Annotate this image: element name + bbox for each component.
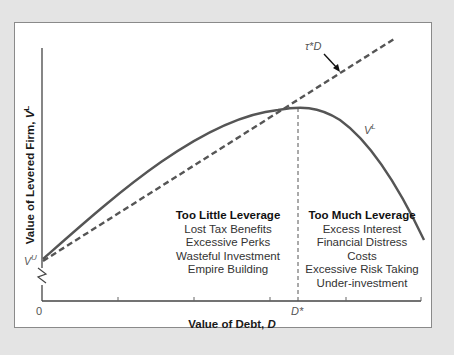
tau-d-label: τ*D <box>305 40 321 52</box>
too-little-title: Too Little Leverage <box>170 209 286 223</box>
too-little-item: Excessive Perks <box>170 236 286 250</box>
vu-sup: U <box>31 253 37 262</box>
too-much-item: Excessive Risk Taking <box>301 263 423 277</box>
vu-base: V <box>24 255 31 267</box>
axis-break-icon <box>38 268 46 283</box>
too-little-item: Lost Tax Benefits <box>170 223 286 237</box>
y-axis-symbol: V <box>24 111 36 119</box>
y-axis-label-text: Value of Levered Firm, <box>24 118 36 244</box>
x-axis-label: Value of Debt, D <box>188 318 276 330</box>
y-axis-label: Value of Levered Firm, VL <box>22 106 36 244</box>
x-axis-symbol: D <box>267 318 275 330</box>
vu-label: VU <box>24 253 37 267</box>
too-much-leverage-box: Too Much Leverage Excess Interest Financ… <box>301 209 423 290</box>
y-axis-sup: L <box>22 106 31 111</box>
too-much-title: Too Much Leverage <box>301 209 423 223</box>
origin-label: 0 <box>36 305 42 317</box>
chart-svg <box>0 0 454 355</box>
vl-sup: L <box>371 122 375 131</box>
tau-d-arrow <box>324 54 337 68</box>
too-much-item: Under-investment <box>301 277 423 291</box>
x-axis-label-text: Value of Debt, <box>188 318 267 330</box>
too-little-item: Wasteful Investment <box>170 250 286 264</box>
too-much-item: Financial Distress Costs <box>301 236 423 263</box>
vl-label: VL <box>364 122 376 136</box>
d-star-label: D* <box>291 305 303 317</box>
too-little-item: Empire Building <box>170 263 286 277</box>
too-much-item: Excess Interest <box>301 223 423 237</box>
too-little-leverage-box: Too Little Leverage Lost Tax Benefits Ex… <box>170 209 286 277</box>
